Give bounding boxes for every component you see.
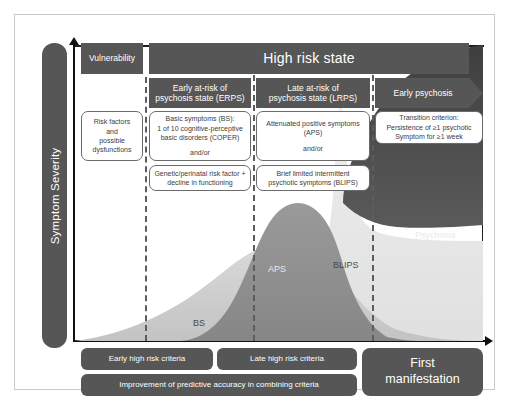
criteria-transition-line-2: Persistence of ≥1 psychotic bbox=[386, 123, 471, 132]
criteria-box-genetic-risk[interactable]: Genetic/perinatal risk factor + decline … bbox=[149, 165, 251, 191]
y-axis-label: Symptom Severity bbox=[49, 147, 61, 244]
criteria-box-blips[interactable]: Brief limited intermittent psychotic sym… bbox=[256, 165, 370, 191]
criteria-genetic-line-2: decline in functioning bbox=[167, 178, 232, 187]
criteria-aps-line-2: (APS) bbox=[304, 128, 323, 137]
stage-divider-3 bbox=[372, 45, 374, 341]
criteria-box-aps[interactable]: Attenuated positive symptoms (APS) and/o… bbox=[256, 111, 370, 161]
summary-bar-first-manifestation-label-2: manifestation bbox=[385, 372, 459, 388]
criteria-aps-andor: and/or bbox=[303, 144, 323, 153]
series-label-psychosis: Psychosis bbox=[415, 230, 456, 240]
summary-bar-first-manifestation[interactable]: First manifestation bbox=[362, 348, 483, 396]
series-label-blips: BLIPS bbox=[333, 260, 359, 270]
stage-bar-vulnerability[interactable]: Vulnerability bbox=[81, 43, 143, 74]
criteria-box-transition[interactable]: Transition criterion: Persistence of ≥1 … bbox=[375, 111, 483, 144]
criteria-box-basic-symptoms[interactable]: Basic symptoms (BS): 1 of 10 cognitive-p… bbox=[149, 111, 251, 161]
criteria-bs-andor: and/or bbox=[190, 148, 210, 157]
summary-bar-first-manifestation-label-1: First bbox=[385, 356, 459, 372]
stage-bar-erps-label-2: psychosis state (ERPS) bbox=[155, 93, 244, 103]
criteria-bs-line-1: Basic symptoms (BS): bbox=[166, 114, 235, 123]
stage-bar-vulnerability-label: Vulnerability bbox=[89, 53, 135, 63]
criteria-blips-line-2: psychotic symptoms (BLIPS) bbox=[268, 178, 357, 187]
criteria-blips-line-1: Brief limited intermittent bbox=[276, 169, 349, 178]
stage-bar-lrps[interactable]: Late at-risk of psychosis state (LRPS) bbox=[256, 78, 370, 108]
summary-bar-improvement-label: Improvement of predictive accuracy in co… bbox=[119, 380, 319, 390]
criteria-risk-line-3: possible bbox=[99, 136, 125, 145]
x-axis-arrow-icon bbox=[485, 336, 493, 346]
summary-bar-late-high-risk[interactable]: Late high risk criteria bbox=[217, 348, 357, 370]
figure-frame: Symptom Severity bbox=[14, 14, 495, 390]
criteria-risk-line-1: Risk factors bbox=[94, 117, 131, 126]
criteria-box-risk-factors[interactable]: Risk factors and possible dysfunctions bbox=[81, 111, 143, 161]
stage-bar-lrps-label-1: Late at-risk of bbox=[269, 83, 357, 93]
stage-bar-early-psychosis-label: Early psychosis bbox=[393, 88, 452, 98]
stage-bar-erps[interactable]: Early at-risk of psychosis state (ERPS) bbox=[149, 78, 251, 108]
stage-divider-2 bbox=[253, 45, 255, 341]
criteria-bs-line-3: basic disorders (COPER) bbox=[161, 133, 240, 142]
stage-divider-1 bbox=[145, 77, 147, 341]
stage-bar-high-risk-state[interactable]: High risk state bbox=[149, 43, 469, 74]
summary-bar-early-high-risk[interactable]: Early high risk criteria bbox=[81, 348, 213, 370]
criteria-risk-line-4: dysfunctions bbox=[93, 145, 132, 154]
summary-bar-improvement[interactable]: Improvement of predictive accuracy in co… bbox=[81, 374, 357, 396]
stage-bar-erps-label-1: Early at-risk of bbox=[155, 83, 244, 93]
summary-bar-late-high-risk-label: Late high risk criteria bbox=[250, 354, 324, 364]
y-axis-label-bar: Symptom Severity bbox=[42, 43, 67, 348]
criteria-transition-line-3: Symptom for ≥1 week bbox=[395, 132, 463, 141]
stage-bar-early-psychosis[interactable]: Early psychosis bbox=[375, 78, 483, 108]
criteria-aps-line-1: Attenuated positive symptoms bbox=[266, 119, 359, 128]
series-label-aps: APS bbox=[268, 264, 286, 274]
criteria-risk-line-2: and bbox=[106, 127, 118, 136]
criteria-transition-line-1: Transition criterion: bbox=[399, 113, 458, 122]
criteria-bs-line-2: 1 of 10 cognitive-perceptive bbox=[157, 124, 243, 133]
stage-bar-lrps-label-2: psychosis state (LRPS) bbox=[269, 93, 357, 103]
summary-bar-early-high-risk-label: Early high risk criteria bbox=[109, 354, 185, 364]
stage-bar-high-risk-state-label: High risk state bbox=[263, 50, 355, 67]
criteria-genetic-line-1: Genetic/perinatal risk factor + bbox=[154, 169, 245, 178]
series-label-bs: BS bbox=[193, 318, 205, 328]
